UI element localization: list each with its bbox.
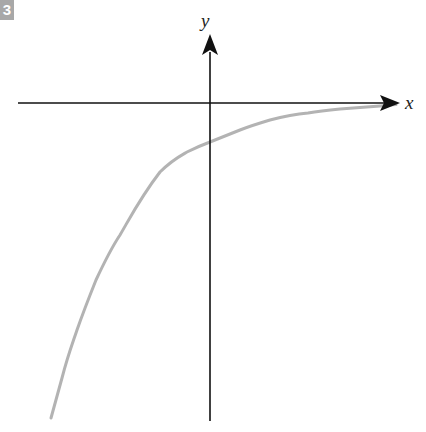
graph-canvas: x y	[0, 0, 426, 432]
y-axis-label: y	[199, 10, 210, 31]
y-axis-arrowhead-icon	[202, 34, 218, 55]
x-axis-label: x	[404, 92, 414, 113]
exponential-curve	[51, 105, 396, 419]
